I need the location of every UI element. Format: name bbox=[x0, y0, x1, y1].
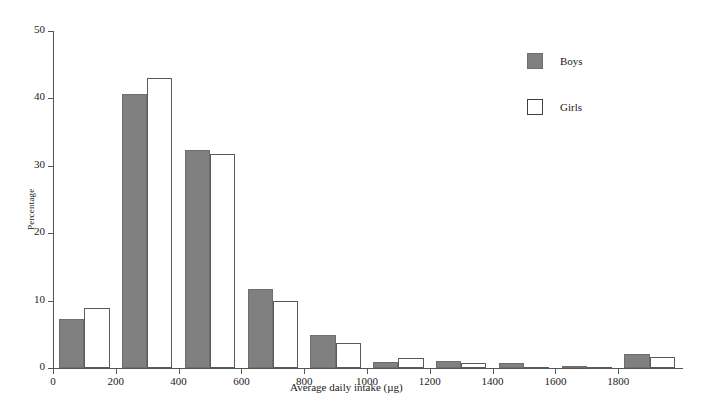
x-tick-mark bbox=[304, 369, 305, 374]
x-tick-mark bbox=[555, 369, 556, 374]
bar-girls-200-400 bbox=[147, 78, 172, 368]
x-tick-mark bbox=[179, 369, 180, 374]
bar-girls-1600-1800 bbox=[587, 367, 612, 369]
y-tick-mark bbox=[48, 98, 53, 99]
bar-chart: 01020304050 0200400600800100012001400160… bbox=[0, 0, 702, 411]
legend-swatch-girls-icon bbox=[527, 99, 543, 115]
x-tick-label: 200 bbox=[91, 375, 141, 387]
x-tick-label: 600 bbox=[216, 375, 266, 387]
x-tick-label: 1200 bbox=[405, 375, 455, 387]
x-axis-title: Average daily intake (µg) bbox=[290, 381, 403, 393]
y-tick-mark bbox=[48, 233, 53, 234]
legend-item-girls: Girls bbox=[527, 99, 582, 115]
bar-boys-600-800 bbox=[248, 289, 273, 368]
legend-item-boys: Boys bbox=[527, 53, 583, 69]
bar-boys-1800-2000 bbox=[624, 354, 649, 368]
x-tick-mark bbox=[493, 369, 494, 374]
x-tick-mark bbox=[53, 369, 54, 374]
bar-girls-600-800 bbox=[273, 301, 298, 368]
bar-boys-200-400 bbox=[122, 94, 147, 368]
y-tick-label: 50 bbox=[13, 23, 45, 35]
bar-girls-1200-1400 bbox=[461, 363, 486, 368]
x-tick-mark bbox=[618, 369, 619, 374]
bar-boys-1400-1600 bbox=[499, 363, 524, 368]
bar-girls-1800-2000 bbox=[650, 357, 675, 368]
y-tick-label: 40 bbox=[13, 90, 45, 102]
y-tick-label: 0 bbox=[13, 360, 45, 372]
bar-boys-0-200 bbox=[59, 319, 84, 368]
bar-boys-1000-1200 bbox=[373, 362, 398, 368]
x-tick-label: 1400 bbox=[468, 375, 518, 387]
x-tick-label: 1600 bbox=[530, 375, 580, 387]
y-tick-mark bbox=[48, 166, 53, 167]
bar-girls-800-1000 bbox=[336, 343, 361, 368]
bar-boys-400-600 bbox=[185, 150, 210, 368]
legend-label-girls: Girls bbox=[560, 101, 582, 113]
legend-swatch-boys-icon bbox=[527, 53, 543, 69]
y-axis-title: Percentage bbox=[26, 189, 36, 230]
bar-boys-800-1000 bbox=[310, 335, 335, 368]
bar-boys-1600-1800 bbox=[562, 366, 587, 368]
x-tick-label: 400 bbox=[154, 375, 204, 387]
legend: Boys Girls bbox=[527, 53, 647, 123]
x-tick-label: 0 bbox=[28, 375, 78, 387]
bar-girls-0-200 bbox=[84, 308, 109, 368]
x-tick-label: 1800 bbox=[593, 375, 643, 387]
legend-label-boys: Boys bbox=[560, 55, 583, 67]
y-axis-line bbox=[53, 31, 54, 369]
y-tick-mark bbox=[48, 301, 53, 302]
x-tick-mark bbox=[367, 369, 368, 374]
y-tick-label: 10 bbox=[13, 293, 45, 305]
bar-girls-1400-1600 bbox=[524, 367, 549, 369]
bar-boys-1200-1400 bbox=[436, 361, 461, 368]
x-tick-mark bbox=[430, 369, 431, 374]
x-tick-mark bbox=[116, 369, 117, 374]
y-tick-mark bbox=[48, 31, 53, 32]
x-tick-mark bbox=[241, 369, 242, 374]
bar-girls-400-600 bbox=[210, 154, 235, 368]
bar-girls-1000-1200 bbox=[398, 358, 423, 368]
y-tick-label: 30 bbox=[13, 158, 45, 170]
